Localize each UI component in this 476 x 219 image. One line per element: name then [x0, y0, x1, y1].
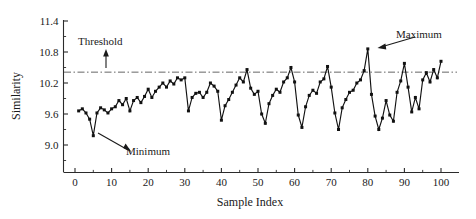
data-point-marker — [381, 117, 384, 120]
data-point-marker — [341, 106, 344, 109]
data-point-marker — [209, 82, 212, 85]
data-point-marker — [235, 84, 238, 87]
data-point-marker — [403, 62, 406, 65]
data-point-marker — [165, 86, 168, 89]
data-point-marker — [311, 89, 314, 92]
data-point-marker — [300, 126, 303, 129]
data-point-marker — [81, 107, 84, 110]
data-point-marker — [396, 91, 399, 94]
data-point-marker — [399, 79, 402, 82]
data-point-marker — [154, 90, 157, 93]
minimum-annotation: Minimum — [98, 133, 170, 157]
data-point-marker — [143, 95, 146, 98]
data-point-marker — [92, 134, 95, 137]
x-tick-label: 50 — [253, 176, 265, 188]
x-axis-title: Sample Index — [217, 195, 283, 209]
data-point-marker — [293, 80, 296, 83]
data-point-marker — [246, 68, 249, 71]
data-point-marker — [106, 111, 109, 114]
data-point-marker — [191, 96, 194, 99]
data-point-marker — [213, 85, 216, 88]
data-point-marker — [194, 92, 197, 95]
x-tick-label: 10 — [106, 176, 118, 188]
x-tick-label: 70 — [326, 176, 338, 188]
data-point-marker — [392, 120, 395, 123]
data-point-marker — [110, 107, 113, 110]
x-tick-label: 90 — [399, 176, 411, 188]
data-point-marker — [99, 106, 102, 109]
data-point-marker — [128, 109, 131, 112]
data-point-marker — [220, 119, 223, 122]
data-point-marker — [407, 86, 410, 89]
data-point-marker — [147, 88, 150, 91]
y-tick-label: 10.8 — [39, 46, 59, 58]
data-point-marker — [330, 86, 333, 89]
data-point-marker — [352, 89, 355, 92]
data-point-marker — [103, 108, 106, 111]
data-point-marker — [117, 99, 120, 102]
data-point-marker — [374, 115, 377, 118]
data-point-marker — [121, 103, 124, 106]
data-point-marker — [388, 114, 391, 117]
y-tick-label: 11.4 — [40, 15, 59, 27]
x-tick-label: 60 — [289, 176, 301, 188]
data-point-marker — [355, 82, 358, 85]
data-point-marker — [377, 128, 380, 131]
data-point-marker — [322, 77, 325, 80]
data-point-marker — [224, 104, 227, 107]
data-point-marker — [385, 99, 388, 102]
data-point-marker — [176, 76, 179, 79]
data-point-marker — [440, 60, 443, 63]
x-tick-label: 80 — [362, 176, 374, 188]
data-point-marker — [366, 47, 369, 50]
data-point-marker — [429, 80, 432, 83]
threshold-label: Threshold — [78, 35, 123, 47]
data-point-marker — [344, 98, 347, 101]
similarity-chart: 9.09.610.210.811.4 010203040506070809010… — [0, 0, 476, 219]
data-point-marker — [202, 96, 205, 99]
data-point-marker — [187, 109, 190, 112]
data-point-marker — [267, 102, 270, 105]
data-point-marker — [432, 68, 435, 71]
data-point-marker — [264, 122, 267, 125]
data-point-marker — [136, 96, 139, 99]
data-point-marker — [319, 80, 322, 83]
x-tick-group: 0102030405060708090100 — [72, 168, 450, 188]
maximum-arrow-head — [378, 44, 387, 50]
data-point-marker — [216, 90, 219, 93]
data-point-marker — [418, 107, 421, 110]
similarity-series-markers — [77, 47, 442, 137]
data-point-marker — [180, 78, 183, 81]
minimum-arrow-shaft — [98, 133, 128, 150]
data-point-marker — [238, 76, 241, 79]
axes — [64, 20, 460, 173]
data-point-marker — [425, 71, 428, 74]
data-point-marker — [158, 86, 161, 89]
data-point-marker — [172, 83, 175, 86]
x-tick-label: 40 — [216, 176, 228, 188]
data-point-marker — [150, 96, 153, 99]
x-tick-label: 100 — [433, 176, 450, 188]
data-point-marker — [410, 110, 413, 113]
chart-canvas: 9.09.610.210.811.4 010203040506070809010… — [0, 0, 476, 219]
threshold-annotation: Threshold — [78, 35, 123, 68]
y-tick-label: 10.2 — [39, 77, 58, 89]
data-point-marker — [227, 98, 230, 101]
y-axis-title: Similarity — [9, 72, 23, 120]
data-point-marker — [275, 88, 278, 91]
data-point-marker — [414, 96, 417, 99]
data-point-marker — [333, 111, 336, 114]
data-point-marker — [183, 76, 186, 79]
data-point-marker — [125, 97, 128, 100]
similarity-series-line — [79, 49, 441, 136]
data-point-marker — [348, 91, 351, 94]
threshold-arrow-head — [103, 49, 109, 57]
x-tick-label: 30 — [179, 176, 191, 188]
y-tick-label: 9.6 — [45, 108, 59, 120]
data-point-marker — [88, 118, 91, 121]
data-point-marker — [242, 80, 245, 83]
maximum-label: Maximum — [396, 28, 442, 40]
data-point-marker — [315, 92, 318, 95]
data-point-marker — [249, 87, 252, 90]
data-point-marker — [95, 111, 98, 114]
